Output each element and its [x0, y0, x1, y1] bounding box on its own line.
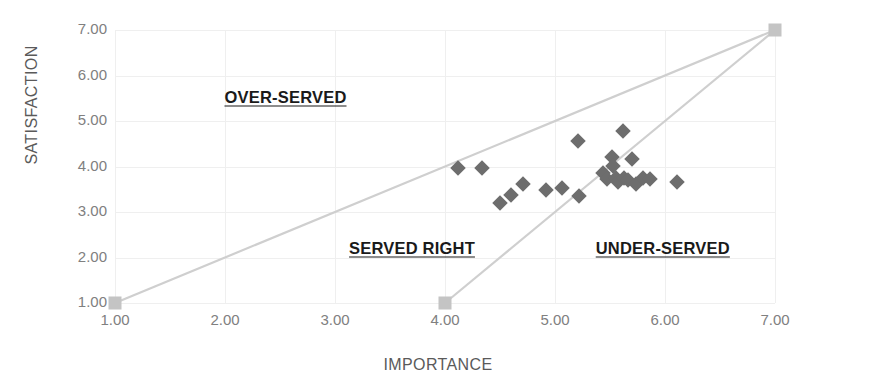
y-tick-label: 1.00: [55, 293, 107, 310]
y-tick-label: 5.00: [55, 111, 107, 128]
parity-line: [115, 30, 775, 303]
y-tick-label: 7.00: [55, 20, 107, 37]
x-tick-label: 5.00: [525, 311, 585, 328]
satisfaction-importance-scatter-chart: SATISFACTION IMPORTANCE 1.002.003.004.00…: [0, 0, 876, 383]
x-tick-label: 1.00: [85, 311, 145, 328]
x-tick-label: 2.00: [195, 311, 255, 328]
x-tick-label: 6.00: [635, 311, 695, 328]
x-axis-title: IMPORTANCE: [0, 356, 876, 374]
reference-lines: [115, 30, 775, 303]
region-label: OVER-SERVED: [224, 88, 346, 107]
gridline-vertical: [775, 30, 776, 303]
y-axis-title: SATISFACTION: [23, 15, 41, 195]
x-tick-label: 3.00: [305, 311, 365, 328]
reference-endpoint-marker: [769, 24, 782, 37]
plot-area: OVER-SERVEDSERVED RIGHTUNDER-SERVED: [115, 30, 775, 303]
region-label: SERVED RIGHT: [349, 239, 475, 258]
x-tick-label: 4.00: [415, 311, 475, 328]
x-tick-label: 7.00: [745, 311, 805, 328]
y-tick-label: 4.00: [55, 157, 107, 174]
y-tick-label: 3.00: [55, 202, 107, 219]
region-label: UNDER-SERVED: [596, 239, 730, 258]
y-tick-label: 6.00: [55, 66, 107, 83]
y-tick-label: 2.00: [55, 248, 107, 265]
reference-endpoint-marker: [439, 297, 452, 310]
reference-endpoint-marker: [109, 297, 122, 310]
